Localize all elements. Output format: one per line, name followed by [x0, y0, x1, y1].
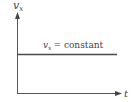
line-label: vx= constant — [43, 40, 104, 51]
y-axis-arrow-icon — [15, 12, 20, 19]
x-axis-arrow-icon — [115, 91, 122, 96]
y-axis-label-subscript: x — [19, 5, 23, 13]
y-axis-label: vx — [13, 0, 23, 13]
velocity-time-graph: vx vx= constant t — [0, 0, 134, 102]
x-axis-label: t — [124, 88, 129, 99]
